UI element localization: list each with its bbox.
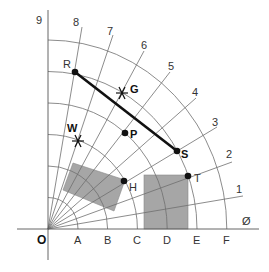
point-s	[174, 148, 181, 155]
ray-label-9: 9	[36, 14, 42, 26]
label-w: W	[67, 122, 78, 134]
shaded-upright-rectangle	[144, 175, 188, 229]
ray-label-6: 6	[141, 39, 147, 51]
label-h: H	[129, 181, 137, 193]
ray-label-1: 1	[236, 183, 242, 195]
label-r: R	[63, 58, 71, 70]
tick-f: F	[223, 234, 230, 246]
ray-label-2: 2	[226, 148, 232, 160]
point-p	[122, 130, 129, 137]
tick-d: D	[163, 234, 171, 246]
label-t: T	[194, 172, 201, 184]
tick-a: A	[74, 234, 82, 246]
ray-label-7: 7	[107, 25, 113, 37]
tick-b: B	[104, 234, 111, 246]
ray-label-8: 8	[73, 16, 79, 28]
polar-grid-diagram: R S G P W H T Ø 1 2 3 4 5 6 7 8 9 O A B …	[0, 0, 269, 272]
label-p: P	[130, 128, 137, 140]
label-g: G	[130, 83, 139, 95]
tick-c: C	[133, 234, 141, 246]
origin-label: O	[37, 233, 46, 247]
point-g-star-icon	[116, 87, 128, 99]
ray-label-3: 3	[212, 116, 218, 128]
ray-label-0: Ø	[242, 215, 251, 227]
point-w-star-icon	[72, 135, 84, 147]
ray-label-4: 4	[192, 86, 198, 98]
point-h	[121, 178, 128, 185]
tick-e: E	[193, 234, 200, 246]
label-s: S	[181, 148, 188, 160]
point-r	[72, 69, 79, 76]
ray-label-5: 5	[168, 60, 174, 72]
point-t	[185, 173, 192, 180]
